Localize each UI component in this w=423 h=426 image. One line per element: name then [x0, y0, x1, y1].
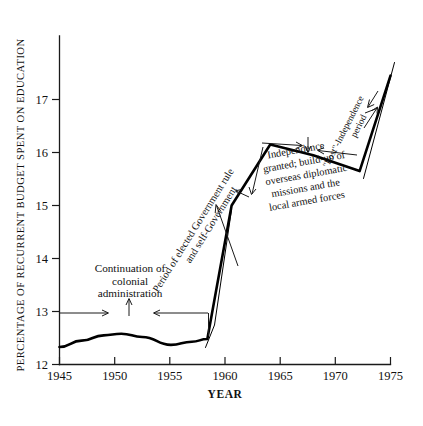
- x-tick-label-1970: 1970: [323, 369, 348, 383]
- chart-svg: 17 16 15 14 13 12 1945 1950 1955 1960 19…: [0, 0, 423, 426]
- y-tick-label-13: 13: [36, 305, 49, 319]
- annotation-post-independence: "Post"-Independence period: [321, 91, 378, 174]
- annotation-colonial-administration: Continuation of colonial administration: [60, 262, 209, 336]
- independence-downleft-arrow: [249, 147, 263, 195]
- colonial-right-arrow: [154, 310, 209, 316]
- post-independence-cross-tick: [365, 108, 378, 113]
- x-tick-label-1950: 1950: [102, 369, 127, 383]
- x-tick-label-1945: 1945: [47, 369, 72, 383]
- colonial-left-arrow: [60, 310, 109, 316]
- post-independence-down-arrow: [368, 91, 379, 108]
- chart-figure: 17 16 15 14 13 12 1945 1950 1955 1960 19…: [0, 0, 423, 426]
- y-ticks-group: 17 16 15 14 13 12: [36, 93, 60, 372]
- y-tick-label-17: 17: [36, 93, 49, 107]
- y-tick-label-15: 15: [36, 199, 49, 213]
- y-tick-label-16: 16: [36, 146, 49, 160]
- data-series-shadow-line-2: [364, 63, 395, 179]
- elected-government-label-line-1: Period of elected Government rule: [150, 166, 236, 294]
- x-tick-label-1965: 1965: [268, 369, 293, 383]
- y-axis-title: PERCENTAGE OF RECURRENT BUDGET SPENT ON …: [15, 38, 26, 371]
- annotation-elected-government: Period of elected Government rule and se…: [150, 166, 246, 300]
- colonial-up-arrow: [126, 299, 132, 317]
- colonial-label-line-1: Continuation of: [95, 262, 166, 274]
- x-tick-label-1955: 1955: [157, 369, 182, 383]
- y-tick-label-14: 14: [36, 252, 49, 266]
- x-tick-label-1975: 1975: [378, 369, 403, 383]
- colonial-label-line-2: colonial: [112, 275, 148, 287]
- x-tick-label-1960: 1960: [213, 369, 238, 383]
- x-ticks-group: 1945 1950 1955 1960 1965 1970 1975: [47, 357, 403, 383]
- x-axis-title: YEAR: [208, 388, 243, 400]
